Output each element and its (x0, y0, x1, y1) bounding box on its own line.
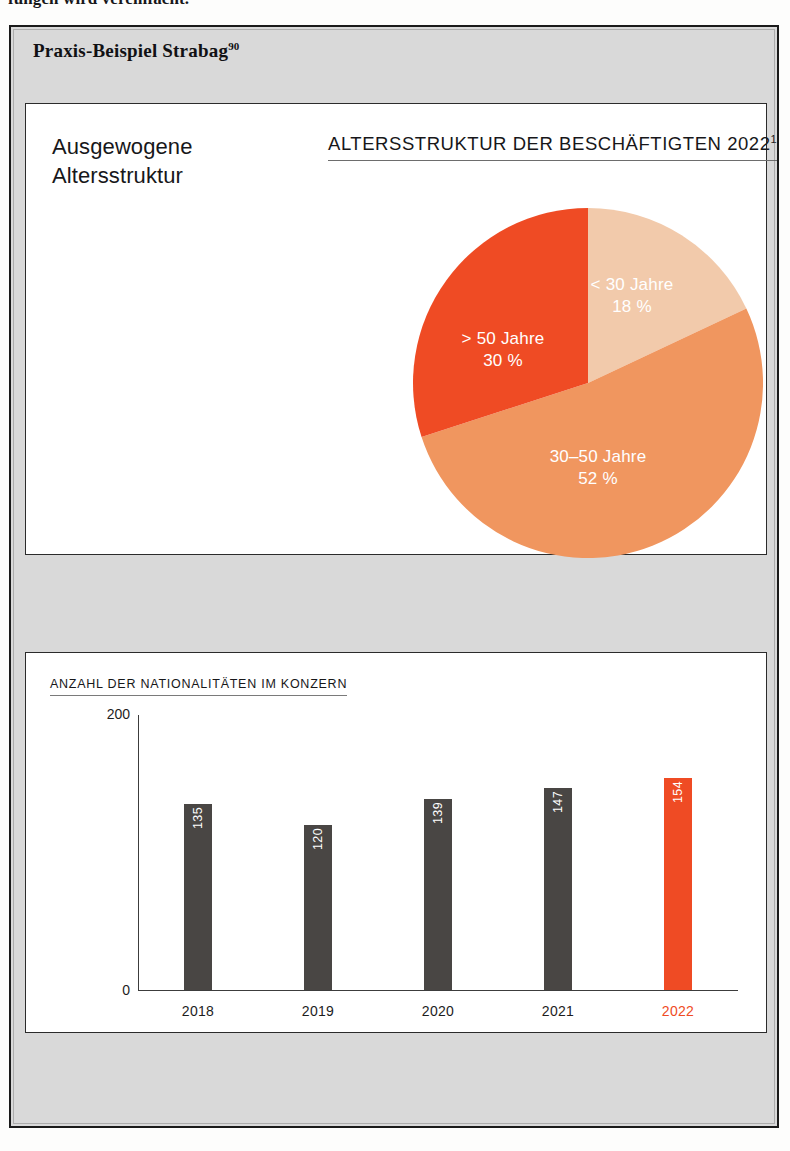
pie-chart-panel: Ausgewogene Altersstruktur ALTERSSTRUKTU… (25, 103, 767, 555)
pie-caption-line-1: Ausgewogene (52, 132, 193, 161)
bar-column-2020: 139 (378, 715, 498, 990)
bar-2020: 139 (424, 799, 452, 990)
bar-value-2020: 139 (431, 802, 445, 824)
pie-slice-label-over-50-value: 30 % (433, 350, 573, 372)
y-axis-tick-max: 200 (70, 706, 130, 722)
pie-caption-line-2: Altersstruktur (52, 161, 193, 190)
pie-svg (413, 208, 763, 558)
x-axis-label-2021: 2021 (498, 1003, 618, 1019)
bar-chart-title: ANZAHL DER NATIONALITÄTEN IM KONZERN (50, 677, 347, 696)
bar-2022: 154 (664, 778, 692, 989)
y-axis-tick-min: 0 (70, 982, 130, 998)
pie-slice-label-30-50-value: 52 % (513, 468, 683, 490)
pie-chart-title: ALTERSSTRUKTUR DER BESCHÄFTIGTEN 20221 (328, 133, 777, 161)
pie-slice-label-30-50-name: 30–50 Jahre (513, 446, 683, 468)
bar-column-2022: 154 (618, 715, 738, 990)
pie-chart-graphic: < 30 Jahre 18 % 30–50 Jahre 52 % > 50 Ja… (413, 208, 763, 558)
pie-chart-title-text: ALTERSSTRUKTUR DER BESCHÄFTIGTEN 2022 (328, 133, 771, 154)
bar-value-2022: 154 (671, 781, 685, 803)
x-axis-line (138, 990, 738, 991)
pie-slice-label-30-50: 30–50 Jahre 52 % (513, 446, 683, 490)
bar-value-2018: 135 (191, 807, 205, 829)
pie-caption: Ausgewogene Altersstruktur (52, 132, 193, 190)
pie-slice-label-under-30: < 30 Jahre 18 % (567, 274, 697, 318)
bar-chart-plot-area: 200 0 135120139147154 201820192020202120… (138, 715, 738, 991)
x-axis-label-2020: 2020 (378, 1003, 498, 1019)
pie-chart-title-footnote-marker: 1 (771, 133, 778, 145)
x-axis-label-2022: 2022 (618, 1003, 738, 1019)
pie-slice-group (413, 208, 763, 558)
box-heading: Praxis-Beispiel Strabag90 (33, 40, 240, 62)
bar-value-2021: 147 (551, 791, 565, 813)
pie-slice-label-over-50: > 50 Jahre 30 % (433, 328, 573, 372)
box-heading-text: Praxis-Beispiel Strabag (33, 40, 228, 61)
pie-slice-label-under-30-name: < 30 Jahre (567, 274, 697, 296)
box-heading-footnote-marker: 90 (228, 40, 239, 52)
bar-value-2019: 120 (311, 828, 325, 850)
bar-column-2018: 135 (138, 715, 258, 990)
x-axis-label-2018: 2018 (138, 1003, 258, 1019)
bar-series: 135120139147154 (138, 715, 738, 990)
bar-column-2019: 120 (258, 715, 378, 990)
bar-2019: 120 (304, 825, 332, 990)
praxis-beispiel-box: Praxis-Beispiel Strabag90 Ausgewogene Al… (9, 25, 779, 1128)
document-page: fungen wird vereinfacht. Praxis-Beispiel… (0, 0, 790, 1151)
x-axis-label-2019: 2019 (258, 1003, 378, 1019)
bar-column-2021: 147 (498, 715, 618, 990)
pie-slice-label-under-30-value: 18 % (567, 296, 697, 318)
bar-2021: 147 (544, 788, 572, 990)
bar-2018: 135 (184, 804, 212, 989)
bar-chart-panel: ANZAHL DER NATIONALITÄTEN IM KONZERN 200… (25, 652, 767, 1033)
pie-slice-label-over-50-name: > 50 Jahre (433, 328, 573, 350)
running-body-text: fungen wird vereinfacht. (8, 0, 408, 11)
